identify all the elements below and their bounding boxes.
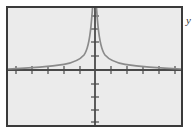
- plot-frame: [6, 6, 183, 127]
- curve-left-branch: [8, 8, 93, 69]
- curve-right-branch: [97, 8, 182, 69]
- y-axis-label: y: [186, 14, 191, 27]
- function-plot: [8, 8, 181, 125]
- figure-container: y: [0, 0, 195, 139]
